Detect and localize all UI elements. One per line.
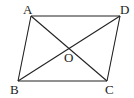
- parallelogram-diagram: A D B C O: [0, 0, 134, 98]
- label-b: B: [10, 83, 19, 96]
- side-ba: [18, 16, 31, 81]
- side-dc: [107, 16, 120, 81]
- label-c: C: [105, 83, 114, 96]
- label-o: O: [64, 51, 73, 64]
- label-d: D: [120, 3, 129, 16]
- diagram-lines: [0, 0, 134, 98]
- diagonal-bd: [18, 16, 120, 81]
- label-a: A: [23, 3, 32, 16]
